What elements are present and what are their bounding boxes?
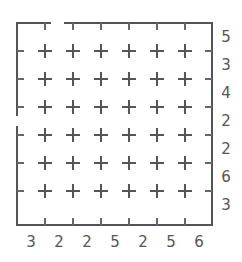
right-edge-tick (205, 190, 212, 192)
top-edge-tick (184, 23, 186, 30)
top-edge-tick (44, 23, 46, 30)
grid-intersection-icon (38, 72, 52, 86)
left-edge-tick (17, 78, 24, 80)
grid-intersection-icon (94, 128, 108, 142)
column-clue: 3 (23, 234, 39, 250)
grid-intersection-icon (178, 72, 192, 86)
right-edge-tick (205, 106, 212, 108)
grid-intersection-icon (94, 156, 108, 170)
grid-intersection-icon (122, 44, 136, 58)
left-edge-tick (17, 106, 24, 108)
grid-intersection-icon (122, 100, 136, 114)
grid-intersection-icon (66, 184, 80, 198)
column-clue: 6 (191, 234, 207, 250)
bottom-edge-tick (44, 218, 46, 225)
row-clue: 4 (218, 85, 234, 101)
grid-intersection-icon (94, 44, 108, 58)
grid-intersection-icon (122, 72, 136, 86)
column-clue: 2 (51, 234, 67, 250)
right-edge-tick (205, 50, 212, 52)
column-clue: 2 (135, 234, 151, 250)
left-edge-tick (17, 190, 24, 192)
grid-intersection-icon (122, 128, 136, 142)
grid-intersection-icon (150, 128, 164, 142)
grid-intersection-icon (38, 128, 52, 142)
grid-intersection-icon (66, 128, 80, 142)
grid-intersection-icon (150, 156, 164, 170)
grid-intersection-icon (94, 72, 108, 86)
row-clue: 2 (218, 141, 234, 157)
column-clue: 2 (79, 234, 95, 250)
grid-intersection-icon (38, 44, 52, 58)
grid-intersection-icon (178, 128, 192, 142)
grid-intersection-icon (178, 184, 192, 198)
bottom-edge-tick (156, 218, 158, 225)
top-edge-tick (72, 23, 74, 30)
grid-intersection-icon (66, 100, 80, 114)
row-clue: 3 (218, 197, 234, 213)
column-clue: 5 (107, 234, 123, 250)
grid-intersection-icon (150, 44, 164, 58)
grid-intersection-icon (94, 100, 108, 114)
top-edge-tick (156, 23, 158, 30)
grid-intersection-icon (38, 100, 52, 114)
grid-intersection-icon (94, 184, 108, 198)
grid-intersection-icon (122, 184, 136, 198)
grid-intersection-icon (38, 156, 52, 170)
top-edge-tick (128, 23, 130, 30)
grid-intersection-icon (66, 156, 80, 170)
row-clue: 6 (218, 169, 234, 185)
puzzle-board: 5342263 3225256 (0, 0, 242, 262)
right-edge-tick (205, 134, 212, 136)
grid-intersection-icon (122, 156, 136, 170)
grid-intersection-icon (66, 44, 80, 58)
grid-intersection-icon (38, 184, 52, 198)
column-clue: 5 (163, 234, 179, 250)
grid-intersection-icon (178, 156, 192, 170)
grid-intersection-icon (178, 44, 192, 58)
bottom-edge-tick (184, 218, 186, 225)
row-clue: 3 (218, 57, 234, 73)
grid-intersection-icon (150, 72, 164, 86)
grid-intersection-icon (150, 100, 164, 114)
bottom-edge-tick (128, 218, 130, 225)
top-edge-tick (100, 23, 102, 30)
grid-intersection-icon (178, 100, 192, 114)
row-clue: 5 (218, 29, 234, 45)
bottom-edge-tick (72, 218, 74, 225)
grid-intersection-icon (66, 72, 80, 86)
bottom-edge-tick (100, 218, 102, 225)
grid-intersection-icon (150, 184, 164, 198)
left-edge-tick (17, 134, 24, 136)
right-edge-tick (205, 162, 212, 164)
right-edge-tick (205, 78, 212, 80)
left-edge-tick (17, 162, 24, 164)
row-clue: 2 (218, 113, 234, 129)
left-edge-tick (17, 50, 24, 52)
